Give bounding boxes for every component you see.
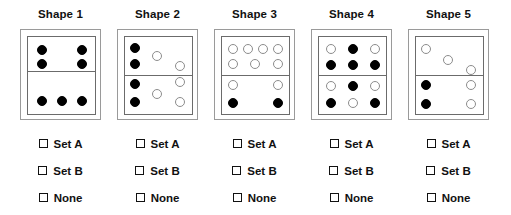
option-row-set-b[interactable]: Set B [400,157,497,184]
checkbox-icon[interactable] [330,139,339,148]
shape-divider-line-1 [28,71,95,72]
option-row-set-a[interactable]: Set A [303,130,400,157]
shape-title-5: Shape 5 [400,8,497,20]
open-dot [326,81,336,91]
open-dot [250,59,260,69]
filled-dot [370,60,380,70]
option-label: None [442,192,471,204]
checkbox-icon[interactable] [232,166,241,175]
filled-dot [77,96,87,106]
option-label: Set A [345,138,374,150]
filled-dot [130,97,140,107]
checkbox-icon[interactable] [233,193,242,202]
option-group-4: Set ASet BNone [303,130,400,211]
option-row-set-a[interactable]: Set A [12,130,109,157]
filled-dot [57,96,67,106]
checkbox-icon[interactable] [427,139,436,148]
open-dot [258,44,268,54]
option-label: Set A [248,138,277,150]
option-label: None [248,192,277,204]
checkbox-icon[interactable] [135,166,144,175]
shape-inner-box-2 [124,36,193,115]
option-row-set-a[interactable]: Set A [400,130,497,157]
shape-inner-box-4 [318,36,387,115]
option-label: Set B [344,165,373,177]
shape-column-4: Shape 4Set ASet BNone [303,0,400,215]
option-label: None [54,192,83,204]
open-dot [175,61,185,71]
option-row-none[interactable]: None [303,184,400,211]
shape-inner-box-1 [27,36,96,115]
shape-outer-frame-4 [311,29,392,120]
open-dot [175,97,185,107]
option-row-set-a[interactable]: Set A [109,130,206,157]
open-dot [228,80,238,90]
shape-title-3: Shape 3 [206,8,303,20]
option-row-set-b[interactable]: Set B [206,157,303,184]
checkbox-icon[interactable] [330,193,339,202]
filled-dot [348,81,358,91]
filled-dot [421,80,431,90]
option-row-set-a[interactable]: Set A [206,130,303,157]
option-group-1: Set ASet BNone [12,130,109,211]
open-dot [152,51,162,61]
filled-dot [421,99,431,109]
shape-inner-box-5 [415,36,484,115]
option-row-none[interactable]: None [206,184,303,211]
open-dot [348,98,358,108]
shape-classification-worksheet: Shape 1Set ASet BNoneShape 2Set ASet BNo… [0,0,511,215]
shape-outer-frame-1 [20,29,101,120]
checkbox-icon[interactable] [136,193,145,202]
shape-divider-line-5 [416,75,483,76]
option-group-3: Set ASet BNone [206,130,303,211]
option-label: None [151,192,180,204]
open-dot [466,99,476,109]
open-dot [466,65,476,75]
checkbox-icon[interactable] [39,193,48,202]
filled-dot [348,44,358,54]
filled-dot [370,98,380,108]
checkbox-icon[interactable] [426,166,435,175]
open-dot [152,89,162,99]
option-row-none[interactable]: None [109,184,206,211]
open-dot [175,77,185,87]
shape-divider-line-4 [319,75,386,76]
shape-outer-frame-3 [214,29,295,120]
checkbox-icon[interactable] [427,193,436,202]
filled-dot [326,98,336,108]
option-row-none[interactable]: None [12,184,109,211]
checkbox-icon[interactable] [38,166,47,175]
option-label: Set B [247,165,276,177]
shape-inner-box-3 [221,36,290,115]
open-dot [370,44,380,54]
open-dot [326,44,336,54]
option-label: Set A [151,138,180,150]
open-dot [466,80,476,90]
shape-column-2: Shape 2Set ASet BNone [109,0,206,215]
option-group-5: Set ASet BNone [400,130,497,211]
option-row-set-b[interactable]: Set B [12,157,109,184]
checkbox-icon[interactable] [39,139,48,148]
filled-dot [273,98,283,108]
shape-title-1: Shape 1 [12,8,109,20]
shape-outer-frame-2 [117,29,198,120]
shape-divider-line-2 [125,75,192,76]
option-label: Set B [53,165,82,177]
option-row-set-b[interactable]: Set B [303,157,400,184]
shape-title-4: Shape 4 [303,8,400,20]
filled-dot [37,96,47,106]
open-dot [228,44,238,54]
filled-dot [228,98,238,108]
filled-dot [130,79,140,89]
option-row-set-b[interactable]: Set B [109,157,206,184]
shape-outer-frame-5 [408,29,489,120]
open-dot [273,59,283,69]
shape-column-5: Shape 5Set ASet BNone [400,0,497,215]
filled-dot [326,60,336,70]
filled-dot [37,59,47,69]
shape-divider-line-3 [222,75,289,76]
checkbox-icon[interactable] [329,166,338,175]
option-row-none[interactable]: None [400,184,497,211]
checkbox-icon[interactable] [136,139,145,148]
checkbox-icon[interactable] [233,139,242,148]
